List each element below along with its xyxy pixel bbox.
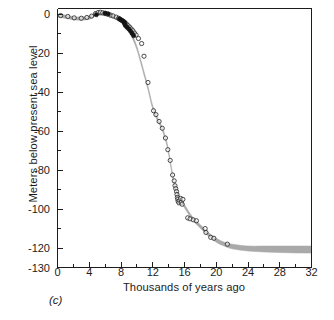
sea-level-curve-figure: Meters below present sea level Thousands… [0,0,334,320]
plot-area [0,0,334,320]
axis-ticks [58,14,312,267]
axis-frame [58,9,312,268]
open-circle-markers [59,10,230,246]
